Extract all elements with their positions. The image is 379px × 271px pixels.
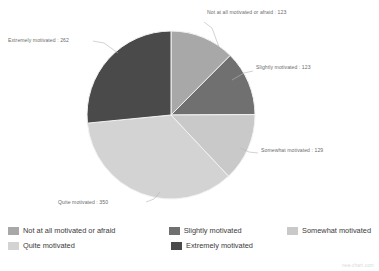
legend-swatch-icon-quite bbox=[8, 242, 19, 250]
legend-item-extremely-motivated[interactable]: Extremely motivated bbox=[171, 241, 253, 250]
pie-chart-area: Not at all motivated or afraid : 123 Sli… bbox=[0, 0, 379, 219]
pie-slice-group bbox=[87, 31, 255, 199]
slice-label-slightly-motivated: Slightly motivated : 123 bbox=[256, 64, 311, 70]
legend-item-quite-motivated[interactable]: Quite motivated bbox=[8, 241, 171, 250]
pie-chart-graphic bbox=[0, 0, 379, 219]
legend-row-1: Not at all motivated or afraid Slightly … bbox=[8, 223, 371, 238]
legend-swatch-icon-somewhat bbox=[287, 227, 298, 235]
legend-item-somewhat-motivated[interactable]: Somewhat motivated bbox=[287, 226, 371, 235]
legend-swatch-icon-extremely bbox=[171, 242, 182, 250]
chart-legend: Not at all motivated or afraid Slightly … bbox=[8, 223, 371, 253]
slice-label-extremely-motivated: Extremely motivated : 262 bbox=[8, 37, 69, 43]
legend-swatch-icon-slightly bbox=[169, 227, 180, 235]
watermark-text: nea-chart.com bbox=[342, 263, 374, 268]
legend-row-2: Quite motivated Extremely motivated bbox=[8, 238, 371, 253]
pie-slice[interactable] bbox=[87, 31, 171, 123]
legend-label-slightly: Slightly motivated bbox=[184, 226, 242, 235]
legend-label-extremely: Extremely motivated bbox=[186, 241, 253, 250]
slice-label-quite-motivated: Quite motivated : 350 bbox=[58, 199, 108, 205]
legend-label-somewhat: Somewhat motivated bbox=[302, 226, 371, 235]
legend-label-quite: Quite motivated bbox=[23, 241, 75, 250]
slice-label-not-at-all-motivated-or-afraid: Not at all motivated or afraid : 123 bbox=[207, 9, 286, 15]
slice-label-somewhat-motivated: Somewhat motivated : 129 bbox=[261, 147, 323, 153]
legend-label-not-at-all: Not at all motivated or afraid bbox=[23, 226, 115, 235]
legend-item-not-at-all-motivated-or-afraid[interactable]: Not at all motivated or afraid bbox=[8, 226, 169, 235]
legend-item-slightly-motivated[interactable]: Slightly motivated bbox=[169, 226, 287, 235]
legend-swatch-icon-not-at-all bbox=[8, 227, 19, 235]
leader-line-extremely bbox=[93, 41, 118, 53]
